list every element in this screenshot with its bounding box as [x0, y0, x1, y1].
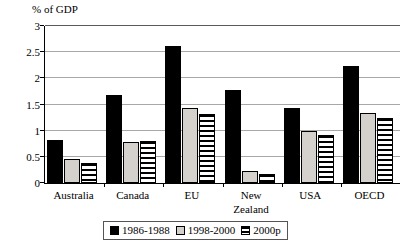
- bar[interactable]: [225, 90, 241, 183]
- x-tick-label-line: Canada: [102, 188, 164, 202]
- bar[interactable]: [199, 114, 215, 183]
- bar[interactable]: [123, 142, 139, 183]
- y-tick-label: 2.5: [2, 47, 40, 58]
- x-tick-label-line: Zealand: [220, 202, 282, 216]
- plot-area: [44, 26, 400, 184]
- bar[interactable]: [377, 118, 393, 183]
- x-tick-label: EU: [161, 188, 223, 202]
- bars-layer: [45, 26, 400, 183]
- y-tick-label: 0: [2, 178, 40, 189]
- bar[interactable]: [140, 141, 156, 183]
- y-tick-label: 3: [2, 21, 40, 32]
- bar-group: [45, 26, 104, 183]
- bar-group: [104, 26, 163, 183]
- legend-label: 2000p: [253, 224, 281, 237]
- x-tick-mark: [163, 183, 164, 187]
- chart-legend: 1986-19881998-20002000p: [103, 221, 288, 240]
- bar[interactable]: [106, 95, 122, 183]
- x-tick-label-line: Australia: [43, 188, 105, 202]
- bar-group: [282, 26, 341, 183]
- legend-swatch-icon: [110, 226, 119, 235]
- x-tick-label-line: USA: [279, 188, 341, 202]
- x-tick-label: USA: [279, 188, 341, 202]
- bar[interactable]: [259, 174, 275, 183]
- x-tick-mark: [282, 183, 283, 187]
- legend-swatch-icon: [176, 226, 185, 235]
- x-tick-label: Canada: [102, 188, 164, 202]
- y-axis-title: % of GDP: [32, 3, 78, 16]
- legend-item[interactable]: 1998-2000: [176, 224, 236, 237]
- y-tick-label: 2: [2, 73, 40, 84]
- bar-group: [223, 26, 282, 183]
- legend-item[interactable]: 2000p: [241, 224, 281, 237]
- x-tick-label: NewZealand: [220, 188, 282, 216]
- x-tick-label: OECD: [338, 188, 400, 202]
- x-axis-tick-labels: AustraliaCanadaEUNewZealandUSAOECD: [44, 188, 399, 222]
- x-tick-mark: [341, 183, 342, 187]
- x-tick-label-line: OECD: [338, 188, 400, 202]
- bar[interactable]: [242, 171, 258, 183]
- bar[interactable]: [81, 163, 97, 183]
- bar[interactable]: [64, 159, 80, 183]
- bar-group: [163, 26, 222, 183]
- legend-label: 1986-1988: [122, 224, 170, 237]
- bar[interactable]: [165, 46, 181, 183]
- x-tick-label-line: New: [220, 188, 282, 202]
- bar[interactable]: [47, 140, 63, 183]
- bar[interactable]: [318, 135, 334, 183]
- x-tick-label-line: EU: [161, 188, 223, 202]
- x-tick-label: Australia: [43, 188, 105, 202]
- y-tick-label: 1.5: [2, 100, 40, 111]
- legend-swatch-icon: [241, 226, 250, 235]
- bar[interactable]: [301, 131, 317, 183]
- y-tick-label: 1: [2, 126, 40, 137]
- legend-label: 1998-2000: [188, 224, 236, 237]
- bar[interactable]: [360, 113, 376, 183]
- bar[interactable]: [284, 108, 300, 183]
- legend-item[interactable]: 1986-1988: [110, 224, 170, 237]
- y-tick-label: 0.5: [2, 152, 40, 163]
- bar-chart-figure: % of GDP 00.511.522.53 AustraliaCanadaEU…: [0, 0, 410, 248]
- bar[interactable]: [182, 108, 198, 183]
- x-tick-mark: [223, 183, 224, 187]
- bar-group: [341, 26, 400, 183]
- bar[interactable]: [343, 66, 359, 183]
- x-tick-mark: [104, 183, 105, 187]
